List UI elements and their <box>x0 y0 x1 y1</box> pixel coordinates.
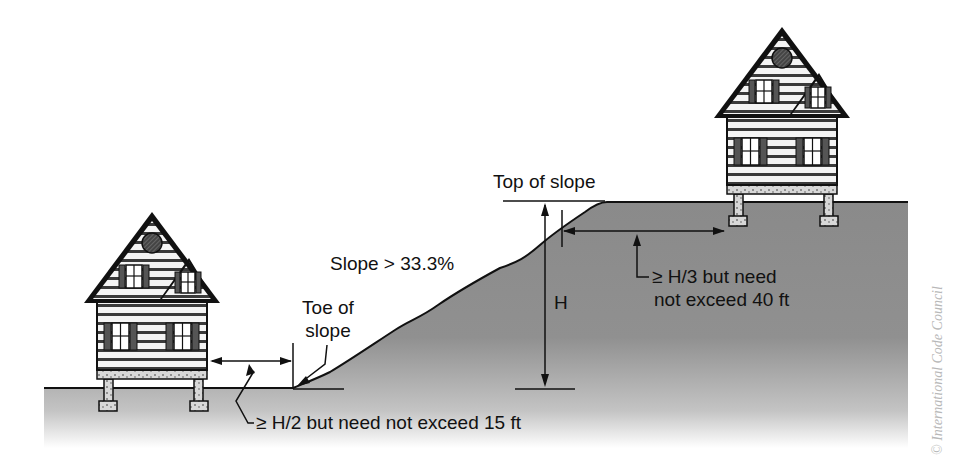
diagram-canvas <box>0 0 972 471</box>
slope-setback-diagram: Top of slope Slope > 33.3% Toe of slope … <box>0 0 972 471</box>
toe-of-slope-label-line2: slope <box>297 320 359 341</box>
height-label: H <box>554 292 568 313</box>
copyright-notice: © International Code Council <box>930 286 946 455</box>
toe-setback-label: ≥ H/2 but need not exceed 15 ft <box>256 412 521 433</box>
top-setback-label-line2: not exceed 40 ft <box>654 289 789 310</box>
top-setback-label-line1: ≥ H/3 but need <box>652 266 777 287</box>
top-of-slope-label: Top of slope <box>493 171 595 192</box>
toe-of-slope-label-line1: Toe of <box>297 297 359 318</box>
upper-house <box>714 27 850 226</box>
slope-grade-label: Slope > 33.3% <box>330 253 454 274</box>
lower-house <box>84 212 220 411</box>
